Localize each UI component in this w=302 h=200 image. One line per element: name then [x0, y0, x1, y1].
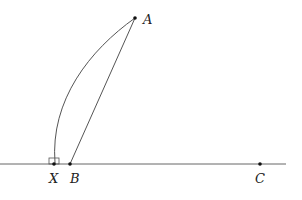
label-b: B: [69, 171, 80, 186]
label-c: C: [255, 171, 265, 186]
point-x: [52, 162, 56, 166]
segment-ab: [70, 18, 135, 164]
label-x: X: [48, 171, 59, 186]
point-a: [133, 16, 137, 20]
geometry-diagram: A X B C: [0, 0, 302, 200]
label-a: A: [142, 12, 152, 27]
point-b: [68, 162, 72, 166]
point-c: [258, 162, 262, 166]
arc-ax: [55, 18, 135, 163]
